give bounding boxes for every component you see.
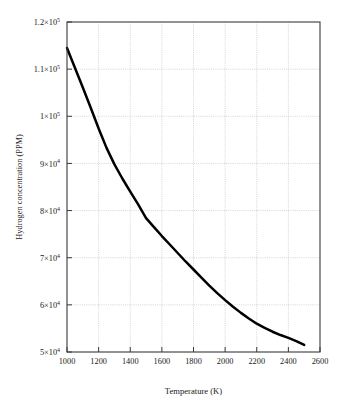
y-tick-label: 9×104 xyxy=(40,158,60,168)
x-axis-title: Temperature (K) xyxy=(165,386,223,396)
x-tick-label: 1200 xyxy=(90,357,107,366)
y-axis-tick-labels: 5×1046×1047×1048×1049×1041×1051.1×1051.2… xyxy=(34,17,60,357)
x-tick-label: 1400 xyxy=(122,357,139,366)
x-tick-label: 2000 xyxy=(217,357,234,366)
y-tick-label: 6×104 xyxy=(40,300,60,310)
y-tick-label: 1.1×105 xyxy=(34,64,60,74)
x-tick-label: 1800 xyxy=(185,357,202,366)
y-tick-label: 8×104 xyxy=(40,206,60,216)
chart-figure: 5×1046×1047×1048×1049×1041×1051.1×1051.2… xyxy=(0,0,340,402)
x-tick-label: 1000 xyxy=(59,357,76,366)
x-axis-tick-labels: 100012001400160018002000220024002600 xyxy=(59,357,329,366)
x-tick-label: 2200 xyxy=(248,357,265,366)
x-tick-label: 2600 xyxy=(312,357,329,366)
y-tick-label: 7×104 xyxy=(40,253,60,263)
y-tick-label: 1×105 xyxy=(40,111,60,121)
hydrogen-concentration-line-chart: 5×1046×1047×1048×1049×1041×1051.1×1051.2… xyxy=(0,0,340,402)
x-tick-label: 1600 xyxy=(154,357,171,366)
y-tick-label: 1.2×105 xyxy=(34,17,60,27)
x-tick-label: 2400 xyxy=(280,357,297,366)
y-axis-title: Hydrogen concentration (PPM) xyxy=(15,134,24,240)
y-tick-label: 5×104 xyxy=(40,347,60,357)
